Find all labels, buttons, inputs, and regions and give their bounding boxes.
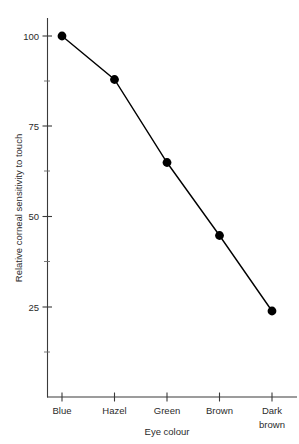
y-tick-label-50: 50 [28,211,39,222]
y-tick-label-25: 25 [28,302,39,313]
y-tick-label-75: 75 [28,121,39,132]
x-category-label-dark-brown-line2: brown [259,419,285,430]
data-point-hazel[interactable] [110,75,119,84]
data-point-blue[interactable] [58,32,67,41]
y-tick-label-100: 100 [23,31,39,42]
x-category-label-brown: Brown [206,405,233,416]
x-category-label-dark-brown-line1: Dark [262,405,282,416]
x-axis-title: Eye colour [145,426,190,437]
data-point-brown[interactable] [215,231,224,240]
data-point-green[interactable] [163,158,172,167]
series-line-sensitivity [62,36,272,311]
y-axis-title: Relative corneal sensitivity to touch [13,134,24,282]
x-category-label-blue: Blue [52,405,71,416]
x-category-label-green: Green [154,405,180,416]
x-category-label-hazel: Hazel [102,405,126,416]
data-point-dark-brown[interactable] [268,307,277,316]
chart-figure: 100 75 50 25 Relative corneal sensitivit… [0,0,299,444]
line-chart-canvas: 100 75 50 25 Relative corneal sensitivit… [0,0,299,444]
